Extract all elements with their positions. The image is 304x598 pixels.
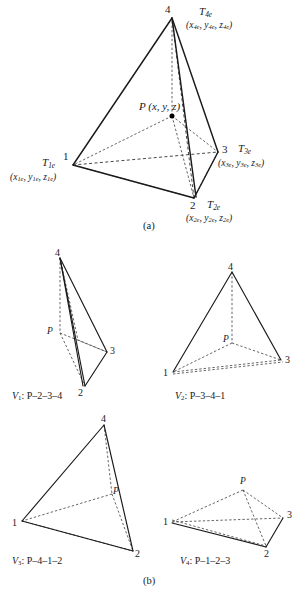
tetrahedron-figure: 4 T4e (x4e, y4e, z4e) P (x, y, z) 1 T1e …: [0, 0, 304, 598]
v4-caption: V4: P–1–2–3: [180, 556, 230, 567]
subfigure-v4-geometry: [172, 490, 283, 547]
main-vertex-3-tag: T3e: [238, 143, 251, 155]
v3-caption: V3: P–4–1–2: [12, 556, 62, 567]
main-ray-p-1: [73, 116, 172, 165]
main-vertex-4-tag-sub: 4e: [205, 10, 212, 19]
interior-point-label: P (x, y, z): [139, 101, 180, 112]
interior-point-name: P: [139, 100, 146, 112]
v2-vertex-1-label: 1: [163, 368, 168, 378]
subfigure-v2-geometry: [173, 272, 283, 374]
v2-vertex-4-label: 4: [228, 262, 233, 272]
main-edge-2-3: [194, 152, 218, 198]
v2-caption-body: : P–3–4–1: [185, 390, 226, 401]
v2-edge-4-1: [173, 272, 232, 372]
v3-vertex-4-label: 4: [101, 414, 106, 424]
v4-edge-1-2: [172, 523, 266, 547]
v1-vertex-4-label: 4: [55, 248, 60, 258]
main-vertex-4-number: 4: [165, 4, 171, 15]
v4-edge-2-3: [266, 518, 283, 547]
v1-caption-body: : P–2–3–4: [22, 390, 63, 401]
v3-vertex-2-label: 2: [135, 549, 140, 559]
c2-zs: 2e: [223, 216, 229, 223]
c2-ys: 2e: [208, 216, 214, 223]
main-vertex-4-tag: T4e: [199, 6, 212, 18]
figure-geometry: [0, 0, 304, 598]
main-edge-4-1: [73, 18, 172, 165]
main-vertex-2-coords: (x2e, y2e, z2e): [186, 214, 232, 224]
v4-edge-1-3-hidden: [172, 518, 283, 522]
v1-edge-4-3: [60, 258, 107, 352]
v1-edge-4-2b: [60, 258, 83, 386]
v3-vertex-1-label: 1: [12, 518, 17, 528]
v2-edge-p-3: [232, 343, 281, 360]
v3-edge-p-2: [112, 494, 133, 551]
v4-vertex-3-label: 3: [287, 510, 292, 520]
main-edge-1-2: [73, 165, 194, 198]
interior-point-coords: (x, y, z): [148, 100, 180, 112]
v3-edge-1-2: [22, 521, 133, 551]
main-vertex-1-coords: (x1e, y1e, z1e): [10, 173, 56, 183]
v4-edge-1-2-hidden: [172, 520, 266, 546]
c3-ys: 3e: [240, 161, 246, 168]
main-vertex-3-coords: (x3e, y3e, z3e): [218, 159, 264, 169]
main-vertex-3-number: 3: [222, 144, 228, 155]
main-edge-1-3-hidden: [73, 152, 218, 165]
v1-vertex-3-label: 3: [110, 346, 115, 356]
v4-point-label: P: [240, 477, 246, 487]
v2-point-label: P: [223, 335, 229, 345]
v3-caption-body: : P–4–1–2: [22, 555, 63, 566]
v1-vertex-2-label: 2: [78, 388, 83, 398]
v2-caption: V2: P–3–4–1: [175, 391, 225, 402]
v1-caption: V1: P–2–3–4: [12, 391, 62, 402]
v3-edge-4-p: [104, 425, 112, 494]
main-vertex-2-number: 2: [190, 200, 196, 211]
v2-edge-4-3: [232, 272, 281, 360]
v2-vertex-3-label: 3: [285, 355, 290, 365]
subfigure-v1-geometry: [60, 258, 107, 386]
c4-zs: 4e: [223, 23, 229, 30]
panel-b-caption: (b): [143, 576, 155, 587]
v4-edge-p-1: [172, 490, 243, 522]
main-vertex-1-number: 1: [63, 151, 69, 162]
main-vertex-1-tag: T1e: [42, 157, 55, 169]
v4-vertex-2-label: 2: [264, 549, 269, 559]
main-vertex-3-tag-sub: 3e: [244, 147, 251, 156]
v3-point-label: P: [113, 487, 119, 497]
v1-edge-2-3: [85, 352, 107, 386]
v1-edge-inner-3: [78, 340, 107, 352]
main-vertex-2-tag-sub: 2e: [213, 203, 220, 212]
c4-ys: 4e: [208, 23, 214, 30]
c1-xs: 1e: [17, 175, 23, 182]
c2-xs: 2e: [193, 216, 199, 223]
c4-xs: 4e: [193, 23, 199, 30]
v4-vertex-1-label: 1: [163, 517, 168, 527]
main-vertex-4-coords: (x4e, y4e, z4e): [186, 21, 232, 31]
main-edge-4-3: [172, 18, 218, 152]
v3-edge-p-1: [22, 494, 112, 521]
v3-edge-4-1: [22, 425, 104, 521]
c3-zs: 3e: [255, 161, 261, 168]
interior-point-marker: [170, 114, 175, 119]
c3-xs: 3e: [225, 161, 231, 168]
c1-zs: 1e: [47, 175, 53, 182]
v1-point-label: P: [47, 327, 53, 337]
v2-edge-1-3-hidden-b: [173, 362, 283, 374]
main-vertex-1-tag-sub: 1e: [48, 161, 55, 170]
v2-edge-1-3-hidden: [173, 360, 281, 372]
v4-caption-body: : P–1–2–3: [190, 555, 231, 566]
main-vertex-2-tag: T2e: [207, 199, 220, 211]
c1-ys: 1e: [32, 175, 38, 182]
panel-a-caption: (a): [143, 221, 155, 232]
